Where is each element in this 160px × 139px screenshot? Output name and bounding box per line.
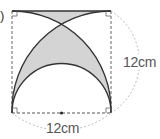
center-point (60, 112, 63, 115)
shaded-crescent-region (12, 25, 111, 113)
shaded-top-region (12, 11, 111, 25)
side-right-label: 12cm (123, 54, 156, 70)
problem-marker: ) (0, 8, 4, 23)
side-bottom-label: 12cm (46, 120, 79, 136)
